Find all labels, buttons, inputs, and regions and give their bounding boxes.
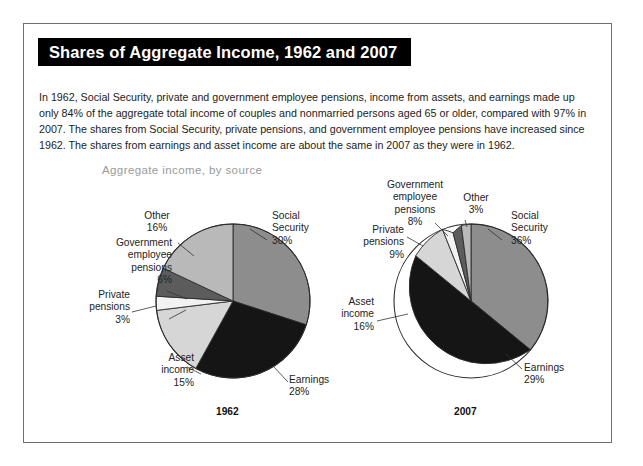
pie-label-other-1962: Other 16%	[131, 210, 183, 235]
slice-government-employee-pensions-2007	[453, 226, 471, 301]
slice-other-1962	[163, 224, 233, 301]
intro-paragraph: In 1962, Social Security, private and go…	[39, 89, 594, 154]
figure-title: Shares of Aggregate Income, 1962 and 200…	[49, 43, 397, 62]
pie-label-earnings-2007: Earnings 29%	[524, 362, 564, 387]
pie-label-social-security-1962: Social Security 30%	[272, 210, 309, 247]
pie-year-label-1962: 1962	[216, 406, 239, 417]
slice-earnings-2007	[409, 256, 530, 364]
pie-label-private-pensions-2007: Private pensions 9%	[320, 224, 404, 261]
pie-label-other-2007: Other 3%	[454, 192, 498, 217]
slice-asset-income-2007	[416, 229, 471, 301]
pie-label-asset-income-2007: Asset income 16%	[302, 296, 374, 333]
pie-label-government-employee-pensions-2007: Government employee pensions 8%	[379, 179, 451, 229]
slice-earnings-1962	[196, 301, 306, 378]
figure-title-bar: Shares of Aggregate Income, 1962 and 200…	[38, 38, 411, 66]
pie-year-label-2007: 2007	[454, 406, 477, 417]
figure-frame: Shares of Aggregate Income, 1962 and 200…	[23, 23, 612, 443]
pie-label-government-employee-pensions-1962: Government employee pensions 6%	[54, 237, 172, 287]
slice-private-pensions-1962	[156, 296, 233, 310]
chart-subtitle: Aggregate income, by source	[102, 164, 262, 176]
pie-label-asset-income-1962: Asset income 15%	[94, 352, 194, 389]
slice-other-2007	[461, 224, 471, 301]
slice-private-pensions-2007	[442, 229, 471, 301]
pie-label-earnings-1962: Earnings 28%	[289, 374, 329, 399]
pie-label-social-security-2007: Social Security 36%	[511, 210, 548, 247]
pie-label-private-pensions-1962: Private pensions 3%	[58, 289, 130, 326]
